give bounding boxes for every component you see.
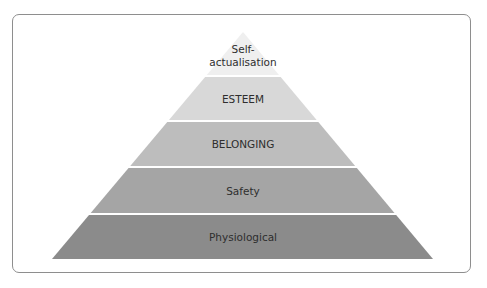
pyramid-layer-self-actualisation: Self-actualisation: [207, 32, 279, 75]
layer-label: BELONGING: [212, 138, 275, 150]
layer-label: Self-: [232, 43, 255, 55]
layer-label: Safety: [226, 185, 260, 197]
layer-label: Physiological: [209, 231, 277, 243]
pyramid-layers: Self-actualisationESTEEMBELONGINGSafetyP…: [52, 32, 433, 259]
layer-label: actualisation: [209, 56, 276, 68]
layer-label: ESTEEM: [222, 93, 264, 105]
pyramid-diagram: Self-actualisationESTEEMBELONGINGSafetyP…: [0, 0, 487, 288]
pyramid-layer-safety: Safety: [91, 168, 395, 213]
pyramid-layer-belonging: BELONGING: [130, 122, 355, 166]
pyramid-layer-physiological: Physiological: [52, 215, 433, 259]
pyramid-layer-esteem: ESTEEM: [169, 77, 317, 120]
